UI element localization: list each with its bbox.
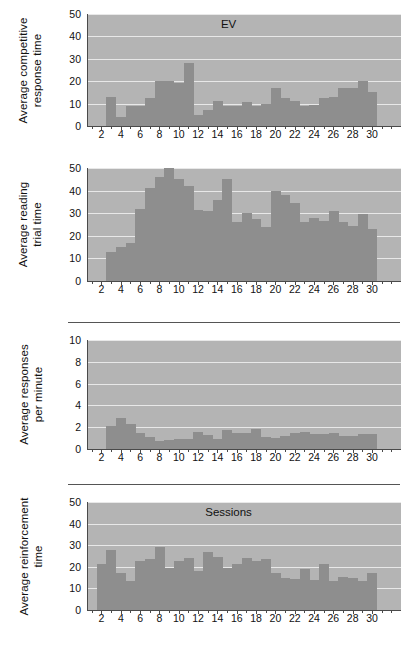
bar bbox=[358, 214, 368, 281]
x-tick-label: 12 bbox=[192, 129, 204, 140]
x-tick-label: 30 bbox=[366, 129, 378, 140]
y-tick-label: 0 bbox=[75, 276, 81, 287]
x-tickmark-minor bbox=[92, 282, 93, 284]
x-tickmark-minor bbox=[304, 282, 305, 284]
x-tick-label: 10 bbox=[173, 613, 185, 624]
x-tickmark-minor bbox=[130, 450, 131, 452]
bar bbox=[367, 573, 377, 610]
x-tick-label: 4 bbox=[118, 452, 124, 463]
x-tickmark-minor bbox=[130, 127, 131, 129]
y-tick-label: 0 bbox=[75, 605, 81, 616]
x-tickmark-minor bbox=[382, 611, 383, 613]
x-tick-label: 20 bbox=[270, 613, 282, 624]
bar bbox=[290, 101, 300, 126]
x-tick-label: 8 bbox=[157, 284, 163, 295]
y-tick-label: 30 bbox=[69, 540, 81, 551]
bar bbox=[251, 106, 261, 126]
bar bbox=[193, 432, 203, 449]
x-tickmark-minor bbox=[324, 127, 325, 129]
x-tickmark-minor bbox=[227, 450, 228, 452]
y-tick-label: 10 bbox=[69, 335, 81, 346]
x-tick-label: 10 bbox=[173, 284, 185, 295]
bar bbox=[174, 83, 184, 126]
x-tickmark-minor bbox=[208, 450, 209, 452]
bar bbox=[358, 581, 368, 610]
bar-series-4 bbox=[87, 502, 401, 610]
bar bbox=[164, 568, 174, 610]
y-axis-line-4 bbox=[87, 502, 88, 611]
bar bbox=[155, 547, 165, 610]
x-tick-label: 8 bbox=[157, 129, 163, 140]
x-tickmark-minor bbox=[391, 127, 392, 129]
x-tick-label: 22 bbox=[289, 452, 301, 463]
bar bbox=[280, 436, 290, 449]
x-tickmark-minor bbox=[382, 127, 383, 129]
x-axis-ticks-4: 24681012141618202224262830 bbox=[87, 611, 401, 627]
bar bbox=[184, 558, 194, 610]
y-tick-label: 10 bbox=[69, 583, 81, 594]
bar bbox=[213, 200, 223, 281]
bar bbox=[319, 564, 329, 610]
y-tick-label: 40 bbox=[69, 518, 81, 529]
x-tickmark-minor bbox=[227, 127, 228, 129]
plot-area-4 bbox=[87, 502, 401, 610]
bar bbox=[348, 226, 358, 281]
x-tickmark-minor bbox=[246, 450, 247, 452]
x-tick-label: 10 bbox=[173, 452, 185, 463]
bar bbox=[367, 92, 377, 126]
x-tickmark-minor bbox=[111, 450, 112, 452]
bar bbox=[184, 63, 194, 126]
bar bbox=[193, 115, 203, 126]
bar bbox=[242, 213, 252, 281]
x-tickmark-minor bbox=[169, 282, 170, 284]
x-tickmark-minor bbox=[150, 450, 151, 452]
bar bbox=[251, 561, 261, 610]
x-tick-label: 26 bbox=[328, 613, 340, 624]
y-tick-label: 20 bbox=[69, 562, 81, 573]
y-axis-label-1: Average competitiveresponse time bbox=[0, 14, 62, 126]
x-axis-ticks-2: 24681012141618202224262830 bbox=[87, 282, 401, 298]
bar bbox=[203, 110, 213, 126]
bar bbox=[203, 211, 213, 281]
x-tickmark-minor bbox=[382, 282, 383, 284]
bar bbox=[329, 581, 339, 610]
bar bbox=[232, 433, 242, 449]
bar bbox=[261, 104, 271, 126]
bar bbox=[271, 573, 281, 610]
y-axis-label-line: Average competitive bbox=[18, 17, 32, 123]
bar bbox=[106, 252, 116, 281]
x-tickmark-minor bbox=[391, 282, 392, 284]
bar bbox=[261, 227, 271, 281]
bar bbox=[222, 430, 232, 449]
panel-title-1: EV bbox=[221, 18, 236, 30]
x-tickmark-minor bbox=[343, 450, 344, 452]
y-tick-label: 0 bbox=[75, 121, 81, 132]
x-tickmark-minor bbox=[246, 127, 247, 129]
bar bbox=[261, 437, 271, 449]
x-tickmark-minor bbox=[188, 450, 189, 452]
bar bbox=[164, 81, 174, 126]
bar bbox=[319, 98, 329, 126]
y-axis-line-2 bbox=[87, 168, 88, 282]
x-tick-label: 6 bbox=[137, 613, 143, 624]
bar bbox=[193, 571, 203, 610]
x-tickmark-minor bbox=[111, 127, 112, 129]
bar bbox=[232, 222, 242, 281]
x-tick-label: 14 bbox=[212, 284, 224, 295]
bar bbox=[280, 98, 290, 126]
x-tickmark-minor bbox=[266, 127, 267, 129]
x-tick-label: 16 bbox=[231, 613, 243, 624]
y-axis-ticks-1: 01020304050 bbox=[62, 14, 84, 126]
bar bbox=[251, 219, 261, 281]
panel-title-4: Sessions bbox=[205, 506, 252, 518]
separator-above-panel-3 bbox=[68, 322, 400, 323]
x-tickmark-minor bbox=[150, 611, 151, 613]
bar bbox=[126, 243, 136, 281]
x-tick-label: 14 bbox=[212, 613, 224, 624]
chart-panel-1: Average competitiveresponse time01020304… bbox=[0, 14, 409, 146]
x-tickmark-minor bbox=[169, 611, 170, 613]
x-tick-label: 26 bbox=[328, 129, 340, 140]
x-tick-label: 24 bbox=[308, 284, 320, 295]
x-tick-label: 16 bbox=[231, 284, 243, 295]
bar bbox=[135, 209, 145, 281]
